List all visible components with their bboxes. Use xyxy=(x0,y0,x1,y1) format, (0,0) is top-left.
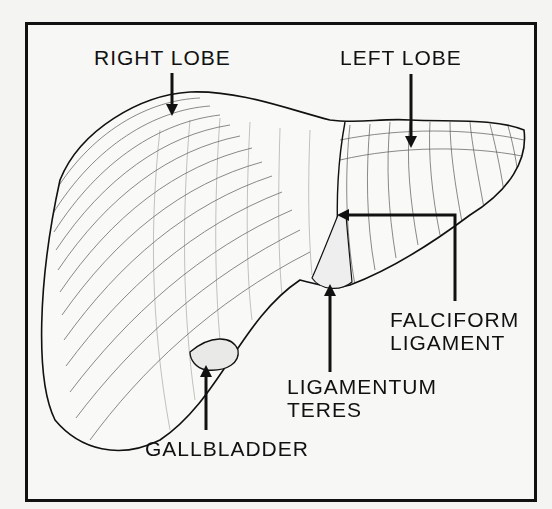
liver-shape xyxy=(42,92,525,451)
label-falciform-ligament: FALCIFORM LIGAMENT xyxy=(390,308,519,354)
label-right-lobe: RIGHT LOBE xyxy=(94,46,231,69)
liver-illustration xyxy=(0,0,552,509)
label-gallbladder: GALLBLADDER xyxy=(145,437,309,460)
label-left-lobe: LEFT LOBE xyxy=(340,46,462,69)
label-ligamentum-teres: LIGAMENTUM TERES xyxy=(287,375,437,421)
